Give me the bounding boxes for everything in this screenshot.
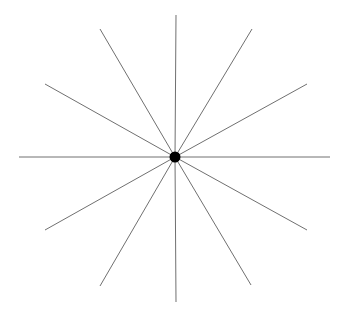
ray-210deg (45, 157, 175, 230)
ray-270deg (175, 157, 176, 302)
ray-60deg (175, 29, 252, 157)
ray-330deg (175, 157, 307, 230)
ray-30deg (175, 84, 307, 157)
ray-90deg (175, 15, 176, 157)
ray-120deg (100, 29, 175, 157)
center-dot (170, 152, 181, 163)
ray-300deg (175, 157, 251, 285)
radial-star-diagram (0, 0, 343, 319)
ray-150deg (45, 84, 175, 157)
ray-240deg (100, 157, 175, 286)
